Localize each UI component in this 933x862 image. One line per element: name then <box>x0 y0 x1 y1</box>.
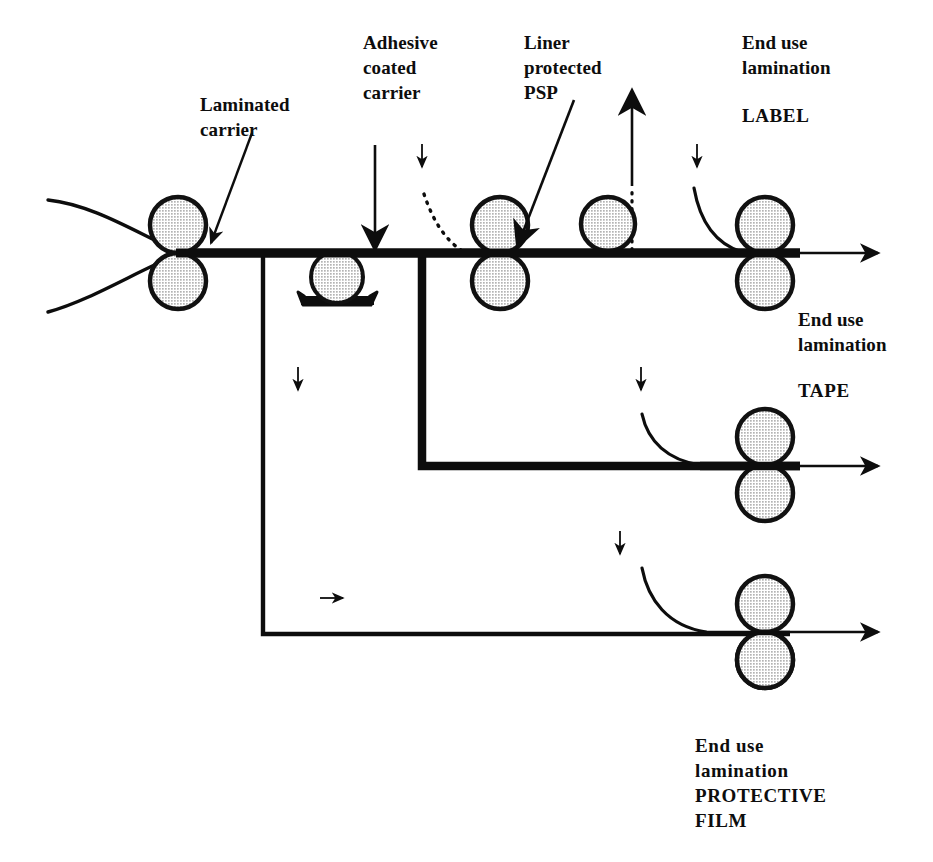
protective-film-facestock-ply <box>642 568 706 632</box>
protective-film-nip-bottom-roller-fill <box>737 632 793 688</box>
web-path-group <box>48 92 878 634</box>
stripped-liner-curve <box>424 194 464 252</box>
label-liner-protected-psp: Liner protected PSP <box>524 30 602 105</box>
tape-lamination-nip-top-roller[interactable] <box>737 409 793 465</box>
idler-roller[interactable] <box>581 197 635 251</box>
label-end-use-lamination-top: End use lamination <box>742 30 831 80</box>
label-product-tape: TAPE <box>798 378 850 403</box>
label-lamination-nip-bottom-roller[interactable] <box>737 253 793 309</box>
label-product-label: LABEL <box>742 103 809 128</box>
adhesive-coating-station[interactable] <box>298 145 377 305</box>
laminated-carrier-leader <box>211 133 252 243</box>
laminating-nip-top-roller[interactable] <box>150 197 206 253</box>
liner-application-nip-top-roller[interactable] <box>472 197 528 253</box>
tape-lamination-nip-bottom-roller[interactable] <box>737 465 793 521</box>
web-overlay-group <box>176 253 800 633</box>
coating-roller[interactable] <box>311 251 363 303</box>
protective-film-branch-web <box>263 253 790 634</box>
process-diagram: Laminated carrier Adhesive coated carrie… <box>0 0 933 862</box>
label-facestock-ply <box>694 188 742 252</box>
label-end-use-lamination-middle: End use lamination <box>798 307 887 357</box>
label-end-use-lamination-bottom: End use lamination PROTECTIVE FILM <box>695 733 827 833</box>
laminating-nip-bottom-roller[interactable] <box>150 253 206 309</box>
liner-application-nip-bottom-roller[interactable] <box>472 253 528 309</box>
label-lamination-nip-top-roller[interactable] <box>737 197 793 253</box>
protective-film-nip-top-roller[interactable] <box>737 576 793 632</box>
liner-protected-psp-leader <box>518 100 574 245</box>
label-laminated-carrier: Laminated carrier <box>200 92 290 142</box>
tape-facestock-ply <box>642 414 700 465</box>
label-adhesive-coated-carrier: Adhesive coated carrier <box>363 30 438 105</box>
